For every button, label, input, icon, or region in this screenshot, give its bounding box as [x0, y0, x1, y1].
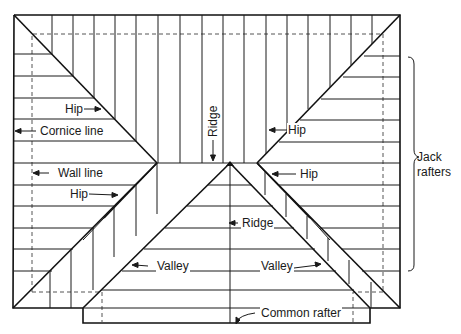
valley-left — [104, 163, 157, 218]
label-common-rafter: Common rafter — [260, 306, 342, 320]
label-ridge-center: Ridge — [241, 216, 274, 230]
label-jack-rafters-line1: Jack — [416, 150, 443, 164]
label-hip-top-left: Hip — [64, 102, 84, 116]
label-wall-line: Wall line — [57, 166, 104, 180]
label-valley-right: Valley — [260, 259, 294, 273]
label-valley-left: Valley — [156, 259, 190, 273]
label-jack-rafters-line2: rafters — [416, 165, 452, 179]
jack-rafters-brace — [408, 57, 419, 271]
label-arrows — [15, 107, 321, 325]
label-hip-left-mid: Hip — [69, 187, 89, 201]
label-hip-right-mid: Hip — [299, 167, 319, 181]
label-ridge-vertical: Ridge — [206, 105, 220, 138]
wing-rafters — [83, 185, 370, 308]
hip-top-right — [257, 15, 400, 163]
label-cornice-line: Cornice line — [39, 124, 104, 138]
label-hip-top-right: Hip — [287, 123, 307, 137]
